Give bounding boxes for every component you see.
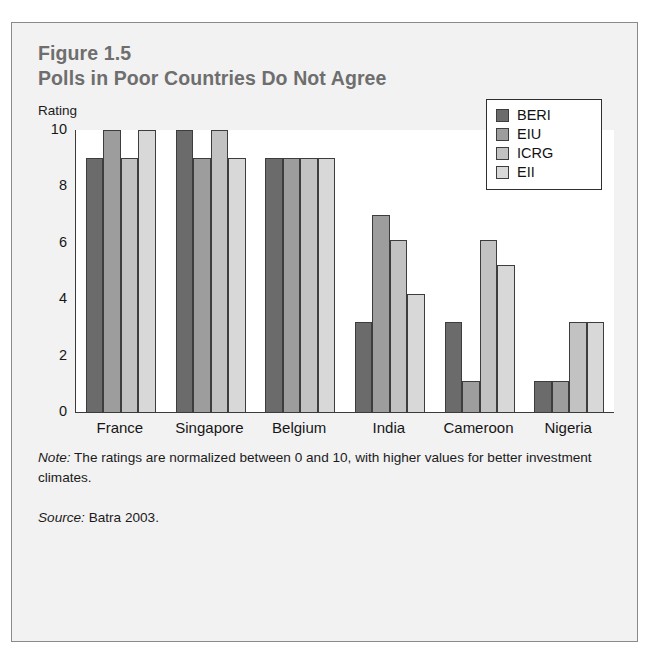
bar-france-beri[interactable] (86, 158, 104, 412)
y-tick-label-10: 10 (31, 121, 67, 137)
y-tick-label-8: 8 (31, 177, 67, 193)
bar-nigeria-eiu[interactable] (552, 381, 570, 412)
y-tick-label-6: 6 (31, 234, 67, 250)
bar-group-france (86, 130, 156, 412)
y-tick-label-0: 0 (31, 403, 67, 419)
x-tick-label-belgium: Belgium (254, 419, 344, 436)
bar-belgium-eiu[interactable] (283, 158, 301, 412)
legend-swatch-beri-icon (496, 109, 509, 122)
figure-note: Note: The ratings are normalized between… (38, 448, 612, 487)
legend-label-icrg: ICRG (517, 146, 553, 161)
legend-item-eiu[interactable]: EIU (487, 125, 601, 144)
figure-number: Figure 1.5 (38, 42, 131, 65)
y-tick-label-2: 2 (31, 347, 67, 363)
bar-singapore-icrg[interactable] (211, 130, 229, 412)
bar-belgium-eii[interactable] (318, 158, 336, 412)
legend-swatch-eiu-icon (496, 128, 509, 141)
bar-group-singapore (176, 130, 246, 412)
x-tick-label-france: France (75, 419, 165, 436)
bar-singapore-eiu[interactable] (193, 158, 211, 412)
bar-group-belgium (265, 130, 335, 412)
legend-swatch-eii-icon (496, 166, 509, 179)
bar-belgium-icrg[interactable] (300, 158, 318, 412)
legend-item-beri[interactable]: BERI (487, 106, 601, 125)
source-keyword: Source: (38, 510, 85, 525)
bar-india-eii[interactable] (407, 294, 425, 412)
y-axis-caption: Rating (38, 103, 77, 118)
bar-nigeria-beri[interactable] (534, 381, 552, 412)
bar-singapore-eii[interactable] (228, 158, 246, 412)
legend-item-eii[interactable]: EII (487, 163, 601, 182)
bar-nigeria-icrg[interactable] (569, 322, 587, 412)
bar-india-eiu[interactable] (372, 215, 390, 412)
legend-swatch-icrg-icon (496, 147, 509, 160)
legend-label-beri: BERI (517, 108, 551, 123)
bar-france-eiu[interactable] (103, 130, 121, 412)
bar-india-beri[interactable] (355, 322, 373, 412)
bar-cameroon-eiu[interactable] (462, 381, 480, 412)
bar-cameroon-icrg[interactable] (480, 240, 498, 412)
bar-group-india (355, 130, 425, 412)
bar-singapore-beri[interactable] (176, 130, 194, 412)
source-body: Batra 2003. (85, 510, 159, 525)
bar-india-icrg[interactable] (390, 240, 408, 412)
bar-cameroon-beri[interactable] (445, 322, 463, 412)
bar-cameroon-eii[interactable] (497, 265, 515, 412)
chart-legend: BERIEIUICRGEII (486, 99, 602, 190)
note-body: The ratings are normalized between 0 and… (38, 450, 592, 485)
x-tick-label-nigeria: Nigeria (523, 419, 613, 436)
figure-title: Polls in Poor Countries Do Not Agree (38, 67, 387, 90)
bar-france-icrg[interactable] (121, 158, 139, 412)
bar-france-eii[interactable] (138, 130, 156, 412)
note-keyword: Note: (38, 450, 71, 465)
x-tick-label-singapore: Singapore (165, 419, 255, 436)
figure-panel: Figure 1.5 Polls in Poor Countries Do No… (11, 22, 638, 642)
x-tick-label-cameroon: Cameroon (434, 419, 524, 436)
bar-nigeria-eii[interactable] (587, 322, 605, 412)
legend-item-icrg[interactable]: ICRG (487, 144, 601, 163)
figure-source: Source: Batra 2003. (38, 510, 612, 525)
y-tick-label-4: 4 (31, 290, 67, 306)
legend-label-eiu: EIU (517, 127, 541, 142)
x-tick-label-india: India (344, 419, 434, 436)
legend-label-eii: EII (517, 165, 535, 180)
bar-belgium-beri[interactable] (265, 158, 283, 412)
